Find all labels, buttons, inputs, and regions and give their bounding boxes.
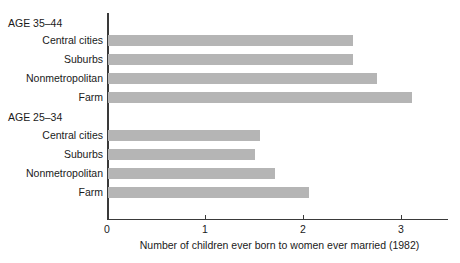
category-label-central-cities-35-44: Central cities xyxy=(42,34,103,46)
bar-chart-figure: AGE 35–44 Central cities Suburbs Nonmetr… xyxy=(0,0,460,263)
x-tick-label-3: 3 xyxy=(398,223,404,235)
x-tick-mark-1 xyxy=(205,215,206,220)
bar-central-cities-25-34 xyxy=(108,130,260,141)
category-label-nonmetropolitan-25-34: Nonmetropolitan xyxy=(26,167,103,179)
group-header-age-25-34: AGE 25–34 xyxy=(8,111,103,123)
x-tick-mark-2 xyxy=(303,215,304,220)
plot-area: 0 1 2 3 xyxy=(107,13,452,219)
x-tick-label-1: 1 xyxy=(202,223,208,235)
x-tick-label-2: 2 xyxy=(300,223,306,235)
bar-suburbs-35-44 xyxy=(108,54,353,65)
x-tick-mark-3 xyxy=(401,215,402,220)
category-label-farm-25-34: Farm xyxy=(79,186,104,198)
category-label-suburbs-35-44: Suburbs xyxy=(64,53,103,65)
category-label-central-cities-25-34: Central cities xyxy=(42,129,103,141)
x-axis-caption: Number of children ever born to women ev… xyxy=(107,239,452,251)
bar-suburbs-25-34 xyxy=(108,149,255,160)
category-label-farm-35-44: Farm xyxy=(79,91,104,103)
category-label-nonmetropolitan-35-44: Nonmetropolitan xyxy=(26,72,103,84)
x-axis-spine xyxy=(107,219,448,220)
bar-nonmetropolitan-25-34 xyxy=(108,168,275,179)
x-tick-mark-0 xyxy=(107,215,108,220)
group-header-age-35-44: AGE 35–44 xyxy=(8,17,103,29)
bar-farm-35-44 xyxy=(108,92,412,103)
bar-nonmetropolitan-35-44 xyxy=(108,73,377,84)
x-tick-label-0: 0 xyxy=(104,223,110,235)
bar-farm-25-34 xyxy=(108,187,309,198)
bar-central-cities-35-44 xyxy=(108,35,353,46)
category-label-suburbs-25-34: Suburbs xyxy=(64,148,103,160)
